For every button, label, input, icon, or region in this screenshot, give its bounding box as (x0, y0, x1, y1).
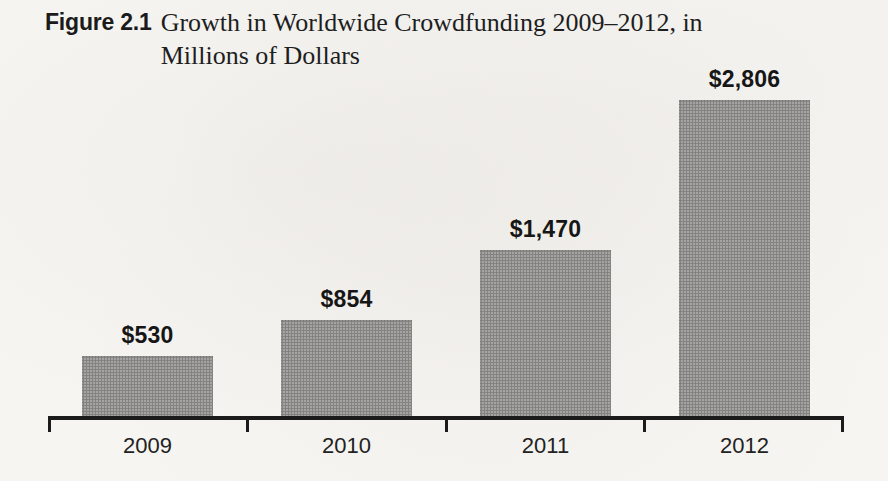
bar-2009 (82, 356, 213, 416)
bar-2011 (480, 250, 611, 416)
bar-chart: $530 $854 $1,470 $2,806 2009 (48, 66, 844, 458)
figure-title: Figure 2.1 Growth in Worldwide Crowdfund… (45, 6, 703, 72)
figure-caption-line-1: Growth in Worldwide Crowdfunding 2009–20… (161, 6, 703, 39)
figure-label: Figure 2.1 (45, 6, 152, 39)
bar-2010 (281, 320, 412, 416)
x-axis-labels: 2009 2010 2011 2012 (48, 434, 844, 458)
bar-value-label-2011: $1,470 (510, 216, 582, 242)
x-tick-label-2012: 2012 (645, 434, 844, 458)
x-axis-line (48, 416, 844, 420)
bar-value-label-2010: $854 (321, 286, 373, 312)
bar-group-2010: $854 (247, 286, 446, 416)
axis-tick-4 (643, 416, 646, 432)
x-tick-label-2009: 2009 (48, 434, 247, 458)
axis-tick-5 (841, 416, 844, 432)
axis-tick-1 (48, 416, 51, 432)
axis-tick-2 (246, 416, 249, 432)
bar-group-2011: $1,470 (446, 216, 645, 416)
bar-value-label-2012: $2,806 (709, 66, 781, 92)
bar-group-2012: $2,806 (645, 66, 844, 416)
plot-area: $530 $854 $1,470 $2,806 (48, 66, 844, 416)
bar-value-label-2009: $530 (122, 322, 174, 348)
x-tick-label-2011: 2011 (446, 434, 645, 458)
bar-2012 (679, 100, 810, 416)
figure-caption: Growth in Worldwide Crowdfunding 2009–20… (161, 6, 703, 72)
x-tick-label-2010: 2010 (247, 434, 446, 458)
axis-tick-3 (445, 416, 448, 432)
book-page: Figure 2.1 Growth in Worldwide Crowdfund… (0, 0, 888, 481)
bar-group-2009: $530 (48, 322, 247, 416)
